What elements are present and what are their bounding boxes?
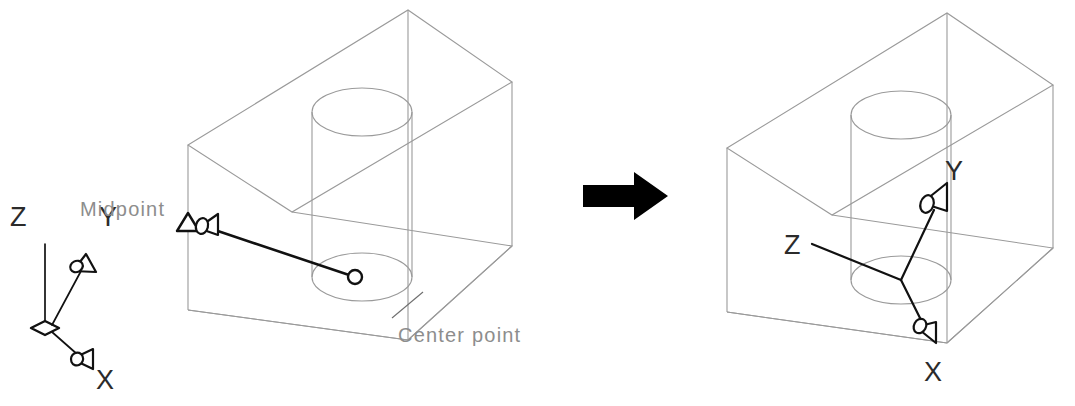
box-with-cylinder-after <box>727 13 1053 343</box>
ucs-y-label-right: Y <box>945 156 963 186</box>
diagram-canvas: Z Y X <box>0 0 1075 406</box>
ucs-x-label-right: X <box>924 357 942 387</box>
ucs-z-axis-line-right <box>812 244 901 280</box>
relocated-ucs-icon <box>812 183 947 343</box>
right-figure-layer: Z Y X <box>0 0 1075 406</box>
ucs-y-axis-line-right <box>901 210 934 280</box>
ucs-z-label-right: Z <box>784 230 801 260</box>
box-edge-lower-right-right <box>947 248 1053 343</box>
cylinder-top-ellipse-right <box>851 91 951 139</box>
box-bottom-face-right <box>727 215 1053 343</box>
ucs-x-cone-icon-right <box>911 317 936 343</box>
box-top-face-right <box>727 13 1053 215</box>
ucs-x-axis-line-right <box>901 280 921 320</box>
ucs-y-cone-icon-right <box>918 183 947 215</box>
